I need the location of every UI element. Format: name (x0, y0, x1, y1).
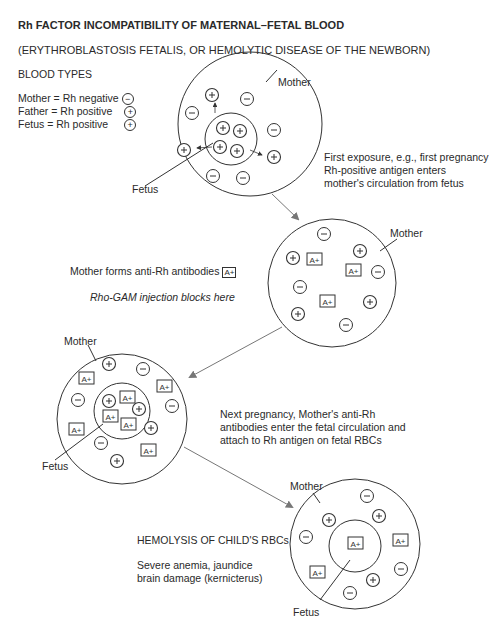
antibody-icon: A+ (307, 253, 322, 265)
panel1-mother-circle (178, 52, 322, 196)
antibody-icon: A+ (157, 380, 172, 392)
svg-text:A+: A+ (143, 447, 153, 456)
antibody-icon: A+ (320, 295, 335, 307)
antibody-icon: A+ (348, 537, 363, 549)
svg-text:A+: A+ (348, 267, 358, 276)
svg-text:A+: A+ (159, 383, 169, 392)
svg-text:A+: A+ (322, 298, 332, 307)
svg-text:A+: A+ (312, 569, 322, 578)
svg-text:A+: A+ (350, 540, 360, 549)
panel3-next-pregnancy: A+ A+ A+ A+ A+ A+ A+ (55, 345, 187, 484)
arrow-panel3-to-panel4 (184, 447, 292, 507)
arrow-panel1-to-panel2 (272, 194, 298, 219)
antibody-icon: A+ (121, 418, 136, 430)
svg-text:A+: A+ (71, 426, 81, 435)
panel2-antibody-formation: A+ A+ A+ (268, 219, 397, 347)
antibody-icon: A+ (393, 534, 408, 546)
antibody-icon: A+ (141, 444, 156, 456)
antibody-icon: A+ (69, 423, 84, 435)
antibody-icon: A+ (310, 566, 325, 578)
svg-text:A+: A+ (81, 375, 91, 384)
panel4-hemolysis: A+ A+ A+ (290, 479, 420, 609)
panel1-fetus-circle (205, 113, 257, 165)
antibody-icon: A+ (120, 391, 135, 403)
svg-text:A+: A+ (123, 421, 133, 430)
arrow-panel2-to-panel3 (190, 327, 282, 377)
svg-text:A+: A+ (395, 537, 405, 546)
panel2-mother-circle (268, 219, 396, 347)
antibody-icon: A+ (346, 264, 361, 276)
panel1-first-exposure (145, 52, 322, 196)
svg-text:A+: A+ (105, 413, 115, 422)
antibody-icon: A+ (79, 372, 94, 384)
svg-text:A+: A+ (122, 394, 132, 403)
svg-text:A+: A+ (309, 256, 319, 265)
antibody-icon: A+ (103, 410, 118, 422)
